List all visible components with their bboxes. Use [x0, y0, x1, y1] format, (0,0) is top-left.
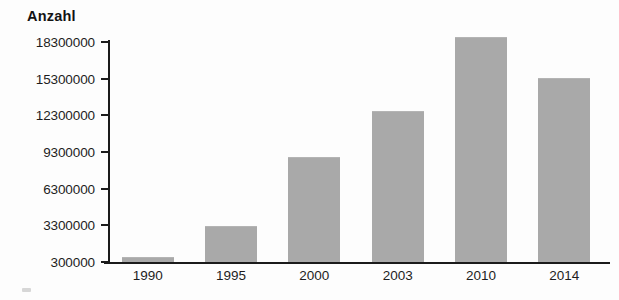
x-axis-tick-label: 2000 [299, 268, 329, 283]
scan-artifact [22, 288, 31, 292]
y-axis-tick-label: 300000 [51, 255, 95, 270]
bar [288, 157, 340, 262]
y-axis-tick [101, 78, 110, 80]
bar [205, 226, 257, 262]
bar [372, 111, 424, 262]
x-axis-tick-label: 2003 [383, 268, 413, 283]
y-axis-tick-label: 3300000 [43, 218, 95, 233]
y-axis-tick-label: 6300000 [43, 181, 95, 196]
y-axis-tick [101, 114, 110, 116]
y-axis-tick [101, 261, 110, 263]
x-axis-tick-label: 2014 [549, 268, 579, 283]
x-axis-tick-label: 1990 [133, 268, 163, 283]
bar [538, 78, 590, 262]
x-axis-tick-label: 1995 [216, 268, 246, 283]
x-axis-tick-label: 2010 [466, 268, 496, 283]
y-axis-tick-label: 18300000 [36, 35, 95, 50]
y-axis-tick [101, 188, 110, 190]
y-axis-tick-label: 9300000 [43, 145, 95, 160]
y-axis-tick [101, 151, 110, 153]
bar-chart: Anzahl 300000330000063000009300000123000… [0, 0, 619, 300]
y-axis-tick [101, 41, 110, 43]
bar [122, 257, 174, 262]
y-axis-tick [101, 224, 110, 226]
y-axis-tick-label: 12300000 [36, 108, 95, 123]
bar [455, 37, 507, 262]
y-axis-tick-label: 15300000 [36, 71, 95, 86]
y-axis-title: Anzahl [27, 8, 76, 24]
plot-area [110, 42, 610, 262]
